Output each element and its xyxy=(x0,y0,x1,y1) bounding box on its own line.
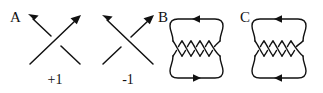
panel-c-label: C xyxy=(240,9,250,25)
c-upper-loop xyxy=(252,19,306,41)
panel-a-label: A xyxy=(10,9,21,25)
b-braid-crossings xyxy=(173,41,220,56)
c-bottom-arrowhead-left xyxy=(274,74,282,81)
crossing-sign-positive: +1 xyxy=(48,72,63,87)
c-braid-crossings xyxy=(255,41,303,56)
panel-a-crossing: A +1 xyxy=(10,9,81,87)
panel-minus-crossing: -1 xyxy=(102,15,154,87)
panel-c-braid-closure: C xyxy=(240,9,306,82)
under-strand-a xyxy=(28,14,80,64)
knot-diagram-figure: A +1 -1 xyxy=(0,0,323,93)
crossing-sign-negative: -1 xyxy=(122,72,134,87)
b-upper-loop xyxy=(170,19,223,41)
c-lower-loop xyxy=(252,56,306,78)
panel-b-braid-closure: B xyxy=(158,9,223,82)
figure-canvas: A +1 -1 xyxy=(0,0,323,93)
over-strand-a xyxy=(30,15,81,64)
c-top-arrowhead-left xyxy=(274,15,282,22)
b-top-arrowhead-left xyxy=(192,15,200,22)
over-strand-minus xyxy=(102,15,153,64)
b-bottom-arrowhead-right xyxy=(193,74,201,81)
panel-b-label: B xyxy=(158,9,168,25)
b-lower-loop xyxy=(170,56,223,78)
